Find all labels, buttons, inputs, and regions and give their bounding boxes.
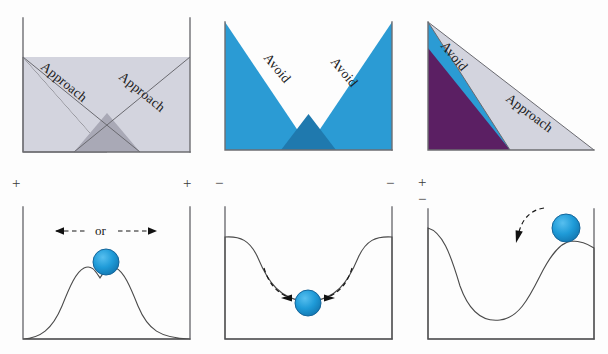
sign-bottom-negative: −: [418, 191, 426, 207]
panel-approach-avoidance: Avoid Approach: [428, 22, 594, 150]
panel-metastable-equilibrium: + −: [418, 174, 594, 339]
ball-stable: [295, 290, 321, 316]
arrowhead-right: [148, 227, 157, 234]
sign-left-negative: −: [215, 175, 223, 191]
diagram-canvas: Approach Approach Avoid Avoid: [0, 0, 608, 354]
sign-right-positive: +: [183, 175, 191, 191]
terrain-basin: [225, 237, 392, 339]
sign-left-positive: +: [12, 175, 20, 191]
sign-top-positive: +: [418, 174, 426, 190]
ball-metastable: [552, 214, 580, 242]
panel-unstable-equilibrium: + + or: [12, 175, 191, 339]
label-avoid-left: Avoid: [261, 50, 294, 86]
sign-right-negative: −: [386, 175, 394, 191]
ball-unstable: [93, 249, 119, 275]
arrow-curve-down-left: [519, 208, 544, 232]
arrow-curve-right: [324, 268, 352, 298]
panel-approach-approach: Approach Approach: [23, 18, 190, 152]
terrain-double-hump: [23, 267, 190, 339]
arrowhead-left: [55, 227, 64, 234]
conflict-diagram-figure: Approach Approach Avoid Avoid: [0, 0, 608, 354]
panel-avoidance-avoidance: Avoid Avoid: [225, 22, 392, 150]
panel-stable-equilibrium: − −: [215, 175, 394, 339]
panel-5-axes: [225, 207, 392, 339]
arrowhead-curve-down-left: [516, 230, 523, 243]
label-or: or: [95, 223, 107, 238]
arrow-curve-left: [264, 268, 292, 298]
terrain-ridge-valley: [428, 228, 594, 339]
